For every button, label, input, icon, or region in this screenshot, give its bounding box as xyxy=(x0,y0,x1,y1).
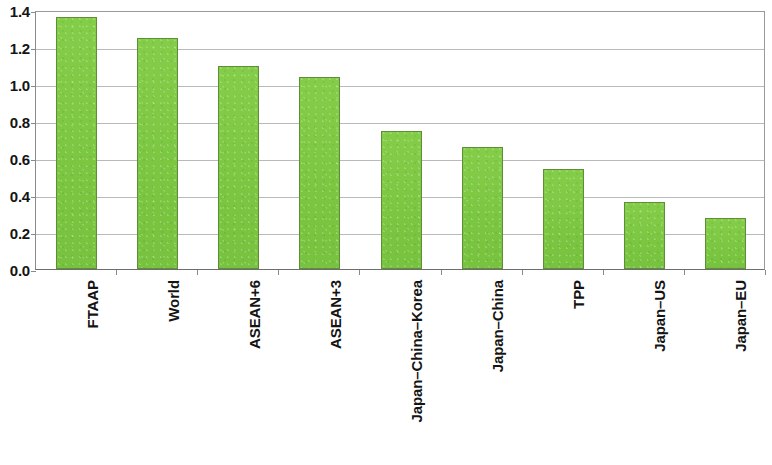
bar-chart: 0.00.20.40.60.81.01.21.4 FTAAPWorldASEAN… xyxy=(0,0,772,465)
y-axis-tick-labels: 0.00.20.40.60.81.01.21.4 xyxy=(0,0,34,280)
y-axis-tick-label: 0.8 xyxy=(10,114,30,131)
x-axis-category-label: TPP xyxy=(570,280,587,309)
x-axis-tick-mark xyxy=(359,270,360,275)
y-axis-tick-label: 0.2 xyxy=(10,225,30,242)
x-axis-labels: FTAAPWorldASEAN+6ASEAN+3Japan–China–Kore… xyxy=(35,270,765,465)
y-axis-tick-label: 0.4 xyxy=(10,188,30,205)
x-axis-category-label: Japan–China–Korea xyxy=(408,280,425,423)
x-axis-tick-mark xyxy=(278,270,279,275)
y-axis-tick-label: 1.2 xyxy=(10,40,30,57)
x-axis-category-label: Japan–EU xyxy=(732,280,749,352)
bars-layer xyxy=(36,12,764,269)
y-axis-tick-label: 1.4 xyxy=(10,3,30,20)
x-axis-category-label: ASEAN+6 xyxy=(246,280,263,349)
x-axis-tick-mark xyxy=(765,270,766,275)
x-axis-tick-mark xyxy=(522,270,523,275)
y-axis-tick-label: 0.0 xyxy=(10,262,30,279)
y-axis-tick-label: 1.0 xyxy=(10,77,30,94)
bar[interactable] xyxy=(543,169,584,269)
bar[interactable] xyxy=(218,66,259,270)
x-axis-category-label: World xyxy=(165,280,182,322)
bar[interactable] xyxy=(299,77,340,269)
bar[interactable] xyxy=(381,131,422,269)
bar[interactable] xyxy=(56,17,97,269)
x-axis-tick-mark xyxy=(441,270,442,275)
x-axis-tick-mark xyxy=(684,270,685,275)
x-axis-category-label: Japan–US xyxy=(651,280,668,352)
plot-area xyxy=(35,11,765,270)
x-axis-category-label: ASEAN+3 xyxy=(327,280,344,349)
bar[interactable] xyxy=(462,147,503,269)
bar[interactable] xyxy=(137,38,178,269)
x-axis-tick-mark xyxy=(603,270,604,275)
x-axis-category-label: Japan–China xyxy=(489,280,506,372)
bar[interactable] xyxy=(705,218,746,269)
bar[interactable] xyxy=(624,202,665,269)
x-axis-category-label: FTAAP xyxy=(84,280,101,328)
y-axis-tick-label: 0.6 xyxy=(10,151,30,168)
x-axis-tick-mark xyxy=(116,270,117,275)
x-axis-tick-mark xyxy=(197,270,198,275)
